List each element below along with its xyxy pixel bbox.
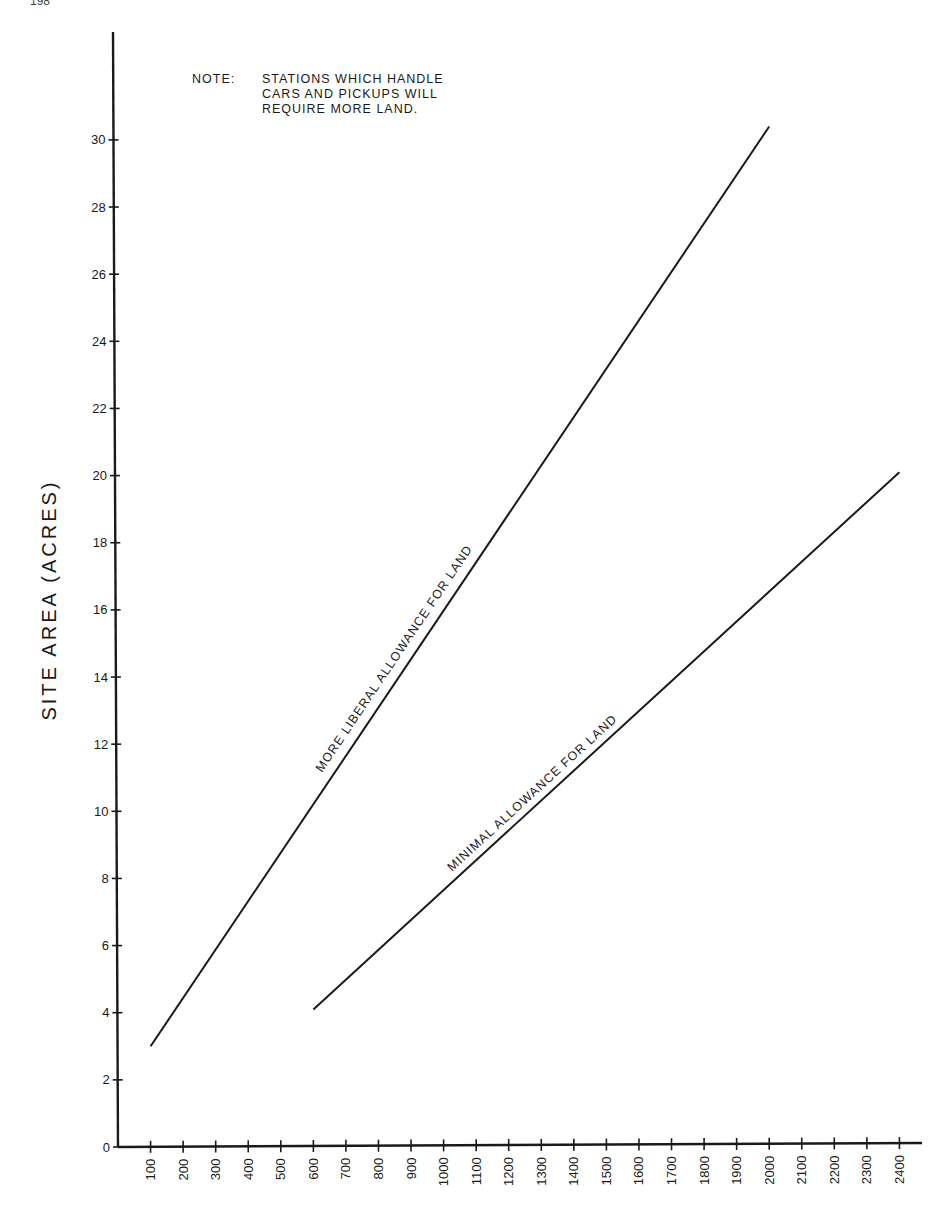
y-tick-label: 20: [93, 468, 107, 483]
y-tick-label: 26: [92, 267, 106, 282]
x-tick-label: 2300: [859, 1155, 874, 1184]
y-tick-label: 6: [102, 938, 109, 953]
series-labels: MORE LIBERAL ALLOWANCE FOR LANDMINIMAL A…: [313, 542, 620, 874]
x-tick-label: 100: [143, 1159, 158, 1181]
axes: 0246810121416182022242628301002003004005…: [91, 32, 922, 1186]
y-tick-label: 10: [94, 804, 108, 819]
x-tick-label: 800: [371, 1158, 386, 1180]
x-tick-label: 1800: [697, 1156, 712, 1185]
x-tick-label: 1900: [729, 1156, 744, 1185]
x-tick-label: 2200: [827, 1155, 842, 1184]
y-tick-label: 30: [91, 132, 105, 147]
y-tick-label: 14: [93, 670, 107, 685]
liberal-allowance-label: MORE LIBERAL ALLOWANCE FOR LAND: [313, 542, 476, 774]
x-tick-label: 1300: [534, 1157, 549, 1186]
series-lines: [151, 127, 900, 1047]
x-tick-label: 1500: [599, 1157, 614, 1186]
minimal-allowance-label: MINIMAL ALLOWANCE FOR LAND: [445, 712, 620, 874]
x-tick-label: 400: [241, 1158, 256, 1180]
liberal-allowance-line: [151, 127, 770, 1047]
x-tick-label: 1000: [436, 1157, 451, 1186]
x-tick-label: 300: [208, 1159, 223, 1181]
y-tick-label: 2: [102, 1072, 109, 1087]
x-tick-label: 200: [176, 1159, 191, 1181]
y-tick-label: 24: [92, 334, 106, 349]
x-tick-label: 500: [273, 1158, 288, 1180]
x-tick-label: 2400: [892, 1155, 907, 1184]
y-tick-label: 8: [102, 871, 109, 886]
x-tick-label: 600: [306, 1158, 321, 1180]
x-tick-label: 700: [338, 1158, 353, 1180]
x-tick-label: 1600: [631, 1156, 646, 1185]
y-tick-label: 4: [102, 1005, 109, 1020]
y-axis: [113, 32, 118, 1147]
y-tick-label: 0: [103, 1140, 110, 1155]
y-tick-label: 18: [93, 535, 107, 550]
x-tick-label: 2000: [762, 1156, 777, 1185]
minimal-allowance-line: [313, 472, 899, 1009]
x-tick-label: 900: [404, 1158, 419, 1180]
y-tick-label: 22: [92, 401, 106, 416]
x-tick-label: 1100: [469, 1157, 484, 1185]
x-tick-label: 1400: [566, 1157, 581, 1186]
y-tick-label: 28: [91, 200, 105, 215]
y-tick-label: 12: [94, 737, 108, 752]
y-tick-label: 16: [93, 602, 107, 617]
x-tick-label: 1200: [501, 1157, 516, 1186]
x-tick-label: 1700: [664, 1156, 679, 1185]
line-chart: 0246810121416182022242628301002003004005…: [0, 0, 932, 1211]
x-tick-label: 2100: [794, 1156, 809, 1185]
